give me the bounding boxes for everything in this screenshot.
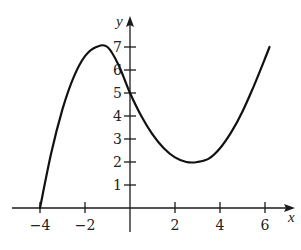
y-tick-label: 7: [113, 39, 122, 55]
x-axis-label: x: [287, 209, 295, 225]
y-tick-label: 4: [113, 108, 122, 124]
x-ticks: −4−2246: [30, 202, 270, 233]
x-tick-label: 4: [216, 217, 225, 233]
y-tick-label: 5: [113, 85, 122, 101]
x-tick-label: −4: [30, 217, 51, 233]
function-graph: −4−2246 1234567 x y: [0, 0, 301, 250]
function-curve: [40, 45, 270, 208]
x-tick-label: −2: [75, 217, 96, 233]
y-tick-label: 1: [113, 177, 122, 193]
x-tick-label: 6: [261, 217, 270, 233]
x-tick-label: 2: [171, 217, 180, 233]
y-tick-label: 2: [113, 154, 122, 170]
y-tick-label: 3: [113, 131, 122, 147]
y-axis-label: y: [114, 13, 123, 29]
